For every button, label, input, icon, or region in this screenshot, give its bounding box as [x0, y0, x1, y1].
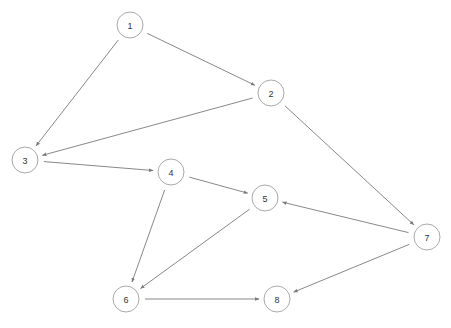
- node-label: 6: [123, 295, 128, 305]
- nodes-layer: 12345678: [12, 12, 440, 312]
- edge-5-to-6: [141, 209, 250, 288]
- edge-4-to-6: [132, 190, 165, 282]
- edge-2-to-7: [285, 106, 414, 225]
- edge-1-to-2: [147, 33, 255, 85]
- node-6[interactable]: 6: [113, 286, 139, 312]
- node-label: 7: [424, 233, 429, 243]
- node-2[interactable]: 2: [258, 80, 284, 106]
- graph-canvas: 12345678: [0, 0, 451, 328]
- node-7[interactable]: 7: [414, 224, 440, 250]
- node-8[interactable]: 8: [264, 286, 290, 312]
- node-1[interactable]: 1: [117, 12, 143, 38]
- node-label: 5: [262, 194, 267, 204]
- node-label: 2: [268, 89, 273, 99]
- node-label: 1: [127, 21, 132, 31]
- edge-4-to-5: [189, 177, 247, 193]
- node-label: 3: [22, 156, 27, 166]
- node-label: 4: [168, 168, 173, 178]
- edge-3-to-4: [44, 162, 153, 171]
- edges-layer: [36, 33, 414, 299]
- edge-1-to-3: [36, 40, 118, 146]
- edge-7-to-8: [294, 244, 410, 292]
- node-label: 8: [274, 295, 279, 305]
- edge-2-to-3: [42, 98, 252, 155]
- node-3[interactable]: 3: [12, 147, 38, 173]
- node-4[interactable]: 4: [158, 159, 184, 185]
- node-5[interactable]: 5: [252, 185, 278, 211]
- edge-7-to-5: [283, 202, 409, 232]
